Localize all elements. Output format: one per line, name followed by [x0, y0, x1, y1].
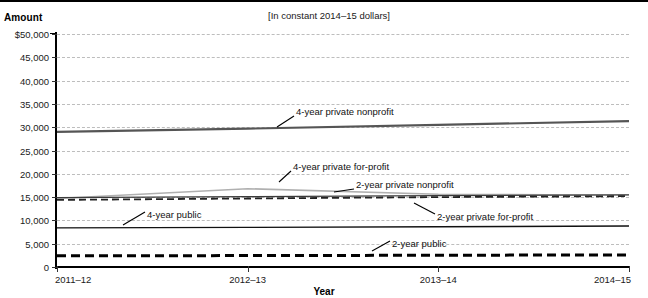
plot-area: [57, 34, 629, 267]
chart-subtitle: [In constant 2014–15 dollars]: [268, 10, 390, 21]
series-label: 2-year private nonprofit: [356, 179, 454, 190]
y-axis-tick-label: 35,000: [20, 98, 49, 109]
series-line: [57, 255, 629, 256]
y-axis-tick-label: 25,000: [20, 145, 49, 156]
series-lines: [57, 34, 629, 267]
y-axis-tick-label: 20,000: [20, 168, 49, 179]
y-axis-tick-label: 45,000: [20, 52, 49, 63]
series-label: 4-year public: [147, 209, 201, 220]
series-line: [57, 121, 629, 132]
y-axis-tick-label: $50,000: [15, 29, 49, 40]
x-axis-tick-label: 2012–13: [229, 274, 266, 285]
series-label: 4-year private for-profit: [293, 161, 389, 172]
y-axis-tick-label: 30,000: [20, 122, 49, 133]
series-label: 2-year private for-profit: [437, 211, 533, 222]
x-axis-tick-label: 2013–14: [420, 274, 457, 285]
series-label: 4-year private nonprofit: [296, 106, 394, 117]
y-axis-tick-label: 15,000: [20, 192, 49, 203]
x-axis-tick-label: 2011–12: [55, 274, 91, 285]
x-axis-tick-mark: [629, 266, 630, 272]
y-axis-tick-label: 5,000: [25, 238, 49, 249]
y-axis-title: Amount: [4, 12, 42, 23]
chart-title-clipped: [0, 0, 648, 1]
y-axis-tick-label: 0: [44, 262, 49, 273]
x-axis-title: Year: [0, 286, 648, 297]
y-axis-tick-label: 40,000: [20, 75, 49, 86]
chart-figure: Amount [In constant 2014–15 dollars] $50…: [0, 0, 648, 298]
series-label: 2-year public: [392, 238, 446, 249]
x-axis-tick-label: 2014–15: [594, 274, 631, 285]
y-axis-tick-label: 10,000: [20, 215, 49, 226]
series-line: [57, 226, 629, 228]
